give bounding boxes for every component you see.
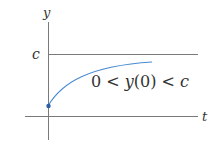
y-axis-label: y [42, 5, 51, 20]
initial-point [46, 104, 50, 108]
asymptote-label: c [32, 46, 40, 62]
curve-condition-label: 0 < y(0) < c [91, 72, 189, 91]
x-axis-label: t [202, 109, 208, 124]
solution-curve-diagram: y t c 0 < y(0) < c [0, 0, 221, 154]
